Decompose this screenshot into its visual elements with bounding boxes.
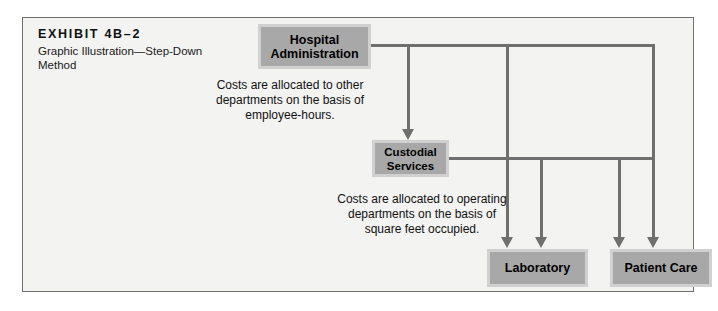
connector-custodial-to-patient-care-vertical [618, 157, 621, 240]
arrowhead-custodial-to-patient-care [613, 237, 625, 248]
annotation-square-feet-basis: Costs are allocated to operating departm… [336, 192, 508, 237]
node-custodial-services[interactable]: Custodial Services [372, 140, 449, 177]
exhibit-subtitle-line-1: Graphic Illustration—Step-Down [38, 44, 238, 58]
arrowhead-hospital-to-laboratory [501, 237, 513, 248]
node-laboratory-label: Laboratory [501, 261, 574, 275]
connector-custodial-horizontal-bus [448, 157, 655, 160]
arrowhead-hospital-to-patient-care [647, 237, 659, 248]
node-patient-care[interactable]: Patient Care [610, 249, 712, 287]
connector-hospital-horizontal-bus [371, 44, 655, 47]
exhibit-page: EXHIBIT 4B–2 Graphic Illustration—Step-D… [0, 0, 718, 311]
exhibit-subtitle-line-2: Method [38, 58, 238, 72]
annotation-employee-hours-basis: Costs are allocated to other departments… [196, 78, 384, 123]
exhibit-title: EXHIBIT 4B–2 [38, 27, 238, 42]
connector-hospital-to-patient-care-vertical [652, 44, 655, 240]
node-hospital-administration-label: Hospital Administration [261, 33, 368, 61]
arrowhead-custodial-to-laboratory [535, 237, 547, 248]
connector-custodial-to-laboratory-vertical [540, 157, 543, 240]
exhibit-caption: EXHIBIT 4B–2 Graphic Illustration—Step-D… [38, 27, 238, 72]
node-laboratory[interactable]: Laboratory [487, 249, 588, 287]
node-hospital-administration[interactable]: Hospital Administration [258, 24, 371, 69]
arrowhead-hospital-to-custodial [402, 129, 414, 140]
node-patient-care-label: Patient Care [621, 261, 702, 275]
node-custodial-services-label: Custodial Services [375, 145, 446, 173]
connector-hospital-to-custodial-vertical [407, 44, 410, 132]
